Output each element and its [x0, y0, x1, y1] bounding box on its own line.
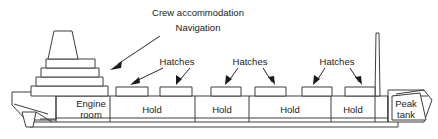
callout-label-navigation: Navigation [176, 22, 221, 33]
rudder-shape [22, 112, 36, 127]
arrow-hatch-6-icon [355, 76, 362, 85]
callout-label-hatches-1: Hatches [160, 56, 195, 67]
compartment-labels-group: EngineroomHoldHoldHoldHoldPeaktank [76, 98, 417, 120]
superstructure-deck-1 [31, 86, 108, 96]
ship-diagram-canvas: Crew accommodationNavigationHatchesHatch… [0, 0, 438, 139]
hatches-group [116, 87, 375, 96]
arrow-hatch-4-icon [268, 76, 275, 85]
callout-label-hatches-3: Hatches [320, 56, 355, 67]
callout-label-hatches-2: Hatches [233, 56, 268, 67]
callout-labels-group: Crew accommodationNavigationHatchesHatch… [152, 7, 355, 67]
arrow-hatch-2-icon [176, 75, 182, 85]
compartment-label-peak-tank: Peak [395, 98, 417, 109]
compartment-label-hold-2: Hold [212, 104, 232, 115]
compartment-label-peak-tank: tank [397, 109, 415, 120]
mast-group [375, 33, 380, 96]
superstructure-group [31, 31, 108, 96]
compartment-label-hold-3: Hold [280, 104, 300, 115]
foremast [375, 33, 380, 96]
hatch-coaming [116, 87, 148, 96]
funnel-shape [48, 31, 78, 59]
superstructure-deck-2 [36, 77, 103, 86]
compartment-label-engine-room: Engine [76, 98, 106, 109]
compartment-label-engine-room: room [80, 109, 102, 120]
hatch-coaming [302, 87, 332, 96]
hatch-coaming [160, 87, 192, 96]
arrow-hatch-3-icon [225, 75, 232, 85]
hatch-coaming [345, 87, 375, 96]
callout-label-crew-accommodation: Crew accommodation [152, 7, 244, 18]
hatch-coaming [255, 87, 286, 96]
navigation-bridge-deck [46, 59, 95, 68]
ship-profile-diagram: Crew accommodationNavigationHatchesHatch… [0, 0, 438, 139]
compartment-label-hold-1: Hold [142, 104, 162, 115]
compartment-label-hold-4: Hold [343, 104, 363, 115]
hatch-coaming [211, 87, 241, 96]
hull-group [18, 96, 398, 127]
leader-navigation [118, 36, 160, 64]
arrow-hatch-1-icon [130, 77, 140, 85]
superstructure-deck-3 [41, 68, 99, 77]
